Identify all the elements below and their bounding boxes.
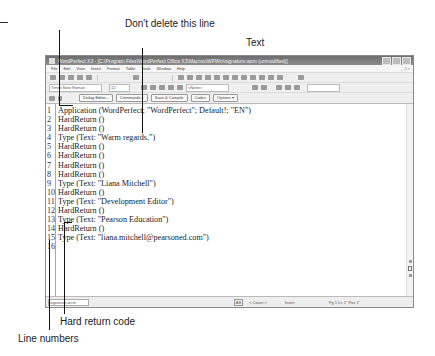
code-text: HardReturn () [55, 142, 104, 151]
document-controls[interactable]: _ □ × [401, 66, 410, 71]
macro-toolbar: Dialog Editor... Commands... Save & Comp… [46, 92, 413, 104]
code-line: 5HardReturn () [46, 142, 407, 151]
bullets-icon[interactable] [214, 75, 220, 80]
menu-edit[interactable]: Edit [63, 66, 70, 71]
status-insert: Insert [285, 300, 295, 305]
document-area[interactable]: 1Application (WordPerfect; "WordPerfect"… [46, 104, 407, 297]
highlight-icon[interactable] [196, 75, 202, 80]
font-color-icon[interactable] [177, 85, 183, 90]
line-number: 2 [46, 115, 55, 124]
menu-view[interactable]: View [76, 66, 85, 71]
style-select[interactable]: <None> [186, 84, 229, 92]
speller-icon[interactable] [277, 75, 283, 80]
dialog-editor-button[interactable]: Dialog Editor... [79, 94, 113, 102]
draw-icon[interactable] [259, 75, 265, 80]
status-app[interactable]: signature.wcm [48, 299, 89, 306]
status-position: Pg 1 Ln 1" Pos 1" [329, 300, 360, 305]
chart-icon[interactable] [250, 75, 256, 80]
line-number: 9 [46, 179, 55, 188]
callout-line-line-numbers [49, 240, 50, 330]
line-number: 3 [46, 124, 55, 133]
italic-icon[interactable] [150, 85, 156, 90]
window-title: WordPerfect X3 - [C:\Program Files\WordP… [58, 58, 382, 64]
scroll-down-icon[interactable] [409, 274, 412, 277]
prop-icon-5[interactable] [294, 85, 300, 90]
line-number: 10 [46, 188, 55, 197]
vertical-scrollbar[interactable] [406, 104, 413, 297]
code-text: HardReturn () [55, 224, 104, 233]
callout-line-hard-return-h [64, 222, 72, 223]
cut-icon[interactable] [133, 75, 139, 80]
callout-text: Text [246, 37, 264, 48]
font-size-select[interactable]: 12 [109, 84, 130, 92]
code-text: HardReturn () [55, 206, 104, 215]
save-as-icon[interactable] [86, 75, 92, 80]
options-button[interactable]: Options ▾ [213, 94, 238, 102]
code-line: 6HardReturn () [46, 151, 407, 160]
print-icon[interactable] [77, 75, 83, 80]
zoom-icon[interactable] [268, 75, 274, 80]
prop-icon-3[interactable] [276, 85, 282, 90]
code-line: 9Type (Text: "Liana Mitchell") [46, 179, 407, 188]
code-text: Type (Text: "Development Editor") [55, 197, 174, 206]
scroll-up-icon[interactable] [409, 260, 412, 263]
columns-icon[interactable] [232, 75, 238, 80]
new-icon[interactable] [50, 75, 56, 80]
save-icon[interactable] [68, 75, 74, 80]
line-number: 5 [46, 142, 55, 151]
prop-icon-1[interactable] [252, 85, 258, 90]
code-line: 14HardReturn () [46, 224, 407, 233]
menu-file[interactable]: File [51, 66, 57, 71]
line-number: 16 [46, 242, 55, 251]
code-text: Application (WordPerfect; "WordPerfect";… [55, 106, 251, 115]
menu-table[interactable]: Table [126, 66, 136, 71]
code-text: HardReturn () [55, 170, 104, 179]
code-text: Type (Text: "liana.mitchell@pearsoned.co… [55, 233, 209, 242]
menu-window[interactable]: Window [157, 66, 171, 71]
code-line: 15Type (Text: "liana.mitchell@pearsoned.… [46, 233, 407, 242]
line-number: 13 [46, 215, 55, 224]
code-line: 8HardReturn () [46, 170, 407, 179]
codes-button[interactable]: Codes [191, 94, 211, 102]
macro-play-icon[interactable] [49, 96, 55, 101]
prop-icon-2[interactable] [261, 85, 267, 90]
save-compile-button[interactable]: Save & Compile [151, 94, 188, 102]
close-button[interactable] [402, 57, 411, 65]
code-text [55, 242, 58, 251]
macro-code[interactable]: 1Application (WordPerfect; "WordPerfect"… [46, 106, 407, 252]
text-color-icon[interactable] [205, 75, 211, 80]
font-face-select[interactable]: Times New Roman [49, 84, 102, 92]
menu-format[interactable]: Format [107, 66, 120, 71]
underline-icon[interactable] [159, 85, 165, 90]
menu-help[interactable]: Help [177, 66, 185, 71]
redo-icon[interactable] [187, 75, 193, 80]
justification-icon[interactable] [168, 85, 174, 90]
line-number: 8 [46, 170, 55, 179]
numbering-icon[interactable] [223, 75, 229, 80]
prop-icon-4[interactable] [285, 85, 291, 90]
menu-insert[interactable]: Insert [91, 66, 101, 71]
code-line: 13Type (Text: "Pearson Education") [46, 215, 407, 224]
code-line: 7HardReturn () [46, 161, 407, 170]
reveal-codes-icon[interactable] [298, 75, 304, 80]
code-text: Type (Text: "Pearson Education") [55, 215, 168, 224]
table-icon[interactable] [241, 75, 247, 80]
undo-icon[interactable] [178, 75, 184, 80]
callout-hard-return: Hard return code [60, 316, 135, 327]
callout-line-dont-delete-h [59, 105, 73, 106]
code-line: 11Type (Text: "Development Editor") [46, 197, 407, 206]
callout-line-dont-delete [59, 30, 60, 105]
browse-icon[interactable] [408, 266, 412, 271]
code-text: HardReturn () [55, 188, 104, 197]
page-mark [0, 22, 8, 23]
code-text: HardReturn () [55, 151, 104, 160]
main-toolbar [46, 72, 413, 82]
status-mode[interactable]: AB [234, 299, 243, 306]
minimize-button[interactable] [382, 57, 391, 65]
maximize-button[interactable] [392, 57, 401, 65]
commands-button[interactable]: Commands... [116, 94, 148, 102]
status-count[interactable]: < Count > [249, 300, 267, 305]
code-line: 16 [46, 242, 407, 251]
title-bar: WordPerfect X3 - [C:\Program Files\WordP… [46, 56, 413, 65]
prop-input[interactable] [307, 84, 340, 92]
